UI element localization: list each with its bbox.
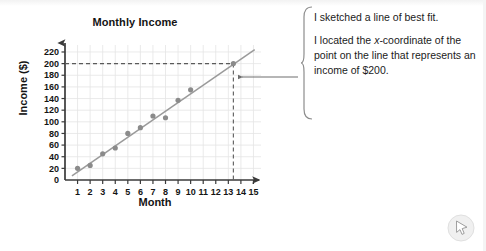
- svg-text:20: 20: [49, 164, 59, 174]
- svg-text:120: 120: [44, 105, 59, 115]
- svg-text:13: 13: [223, 187, 233, 197]
- svg-text:8: 8: [163, 187, 168, 197]
- svg-text:15: 15: [248, 187, 258, 197]
- annotation-line-2-pre: I located the: [314, 34, 374, 46]
- svg-text:160: 160: [44, 82, 59, 92]
- plot-area: 020406080100120140160180200220 123456789…: [0, 0, 300, 215]
- svg-text:0: 0: [54, 175, 59, 185]
- svg-text:11: 11: [198, 187, 208, 197]
- annotation-line-2: I located the x-coordinate of the point …: [314, 33, 482, 78]
- y-axis-ticks: 020406080100120140160180200220: [44, 47, 65, 185]
- svg-text:220: 220: [44, 47, 59, 57]
- svg-text:4: 4: [113, 187, 118, 197]
- cursor-arrow-icon: [444, 211, 478, 245]
- svg-text:200: 200: [44, 59, 59, 69]
- svg-text:60: 60: [49, 140, 59, 150]
- curly-brace-icon: [300, 4, 314, 122]
- intersection-point: [231, 61, 236, 66]
- svg-text:12: 12: [211, 187, 221, 197]
- svg-text:80: 80: [49, 129, 59, 139]
- svg-text:100: 100: [44, 117, 59, 127]
- monthly-income-chart: Monthly Income Income ($) Month 02040608…: [0, 0, 300, 215]
- annotation-text: I sketched a line of best fit. I located…: [314, 10, 482, 86]
- svg-text:14: 14: [236, 187, 246, 197]
- left-arrow-icon: [238, 70, 300, 84]
- svg-text:180: 180: [44, 70, 59, 80]
- svg-text:40: 40: [49, 152, 59, 162]
- annotation-line-1: I sketched a line of best fit.: [314, 10, 482, 25]
- svg-text:5: 5: [125, 187, 130, 197]
- svg-text:1: 1: [75, 187, 80, 197]
- svg-text:10: 10: [186, 187, 196, 197]
- svg-text:2: 2: [88, 187, 93, 197]
- svg-text:140: 140: [44, 94, 59, 104]
- x-axis-ticks: 123456789101112131415: [75, 180, 258, 197]
- annotation-callout: I sketched a line of best fit. I located…: [300, 4, 486, 124]
- svg-text:6: 6: [138, 187, 143, 197]
- svg-text:9: 9: [176, 187, 181, 197]
- svg-text:3: 3: [100, 187, 105, 197]
- svg-text:7: 7: [150, 187, 155, 197]
